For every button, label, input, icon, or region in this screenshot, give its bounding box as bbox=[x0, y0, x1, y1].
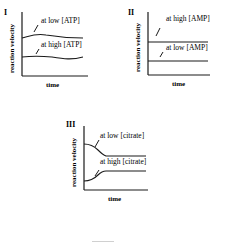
panel-ii-label: II bbox=[128, 8, 134, 17]
panel-ii-curve-label-low: at low [AMP] bbox=[166, 43, 208, 52]
panel-i-y-axis-label: reaction velocity bbox=[8, 23, 16, 73]
panel-iii-label: III bbox=[66, 120, 75, 129]
panel-i-label: I bbox=[4, 8, 7, 17]
caption-remnant bbox=[92, 241, 114, 242]
panel-iii-leader-low bbox=[95, 140, 99, 147]
panel-iii-curve-high-citrate bbox=[84, 171, 146, 181]
panel-ii-x-axis-label: time bbox=[172, 80, 185, 88]
panel-i-leader-low bbox=[34, 25, 38, 32]
panel-ii-leader-low bbox=[160, 52, 163, 57]
panel-i: I reaction velocity time at low [ATP] at… bbox=[4, 8, 88, 89]
panel-iii-x-axis-label: time bbox=[108, 195, 121, 203]
panel-iii: III reaction velocity time at low [citra… bbox=[66, 120, 148, 203]
panel-i-curve-low-atp bbox=[22, 34, 83, 38]
panel-i-curve-label-low: at low [ATP] bbox=[41, 16, 80, 25]
panel-i-curve-label-high: at high [ATP] bbox=[41, 40, 82, 49]
panel-i-curve-high-atp bbox=[22, 56, 83, 59]
panel-iii-curve-label-low: at low [citrate] bbox=[100, 131, 144, 140]
panel-iii-curve-label-high: at high [citrate] bbox=[100, 157, 146, 166]
panel-i-x-axis-label: time bbox=[46, 81, 59, 89]
panel-ii-curve-label-high: at high [AMP] bbox=[166, 14, 210, 23]
panel-ii-y-axis-label: reaction velocity bbox=[134, 22, 142, 72]
panel-iii-y-axis-label: reaction velocity bbox=[70, 137, 78, 187]
panel-i-leader-high bbox=[36, 49, 39, 54]
figure-canvas: I reaction velocity time at low [ATP] at… bbox=[0, 0, 226, 244]
panel-ii: II reaction velocity time at high [AMP] … bbox=[128, 8, 210, 88]
panel-iii-curve-low-citrate bbox=[84, 144, 146, 156]
panel-ii-leader-high bbox=[156, 28, 160, 36]
